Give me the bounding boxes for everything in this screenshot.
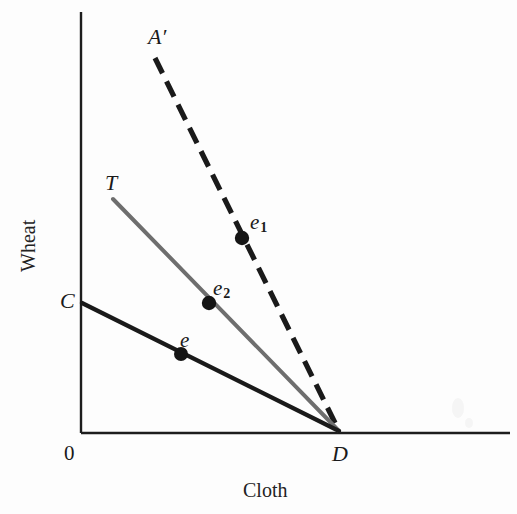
label-c: C <box>60 290 75 312</box>
budget-line-a-prime-d <box>155 58 339 431</box>
label-a-prime: A′ <box>148 26 166 48</box>
x-axis-label: Cloth <box>243 480 287 500</box>
budget-line-c-d <box>82 303 339 431</box>
point-e1-dot <box>235 231 249 245</box>
label-e1-base: e <box>250 210 259 234</box>
label-e1-subscript: 1 <box>260 220 267 235</box>
label-origin: 0 <box>64 443 75 464</box>
label-d: D <box>332 443 348 465</box>
label-a-prime-mark: ′ <box>161 24 166 49</box>
y-axis-label: Wheat <box>18 220 38 272</box>
diagram-canvas <box>0 0 517 514</box>
label-e2: e2 <box>213 278 230 301</box>
economics-diagram: A′ T C D e1 e2 e 0 Wheat Cloth <box>0 0 517 514</box>
label-e1: e1 <box>250 212 267 235</box>
label-a-prime-letter: A <box>148 24 161 49</box>
label-e: e <box>180 330 189 351</box>
label-e2-subscript: 2 <box>223 286 230 301</box>
budget-line-t-d <box>113 199 339 431</box>
label-t: T <box>105 172 117 194</box>
label-e2-base: e <box>213 276 222 300</box>
